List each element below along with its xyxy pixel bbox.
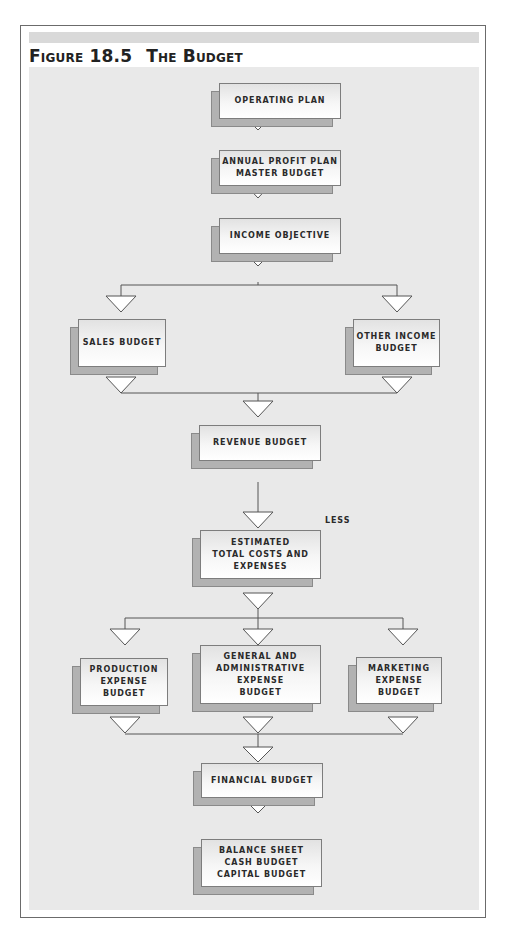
node-label: Production [90,664,159,676]
node-label: General and [224,651,298,663]
arrow-down-icon [110,717,140,733]
figure-title: Figure 18.5The Budget [29,46,243,66]
arrow-down-icon [243,401,273,417]
less-annotation: Less [325,516,350,525]
figure-caption: The Budget [146,46,243,66]
node-label: Master Budget [236,168,324,180]
arrow-down-icon [382,296,412,312]
node-label: Capital Budget [217,869,306,881]
arrow-down-icon [388,629,418,645]
node-label: Expense [100,676,147,688]
node-label: Budget [239,687,281,699]
node-label: Expense [237,675,284,687]
node-label: Estimated [231,537,290,549]
node-label: Balance Sheet [219,845,304,857]
diagram-canvas: Operating Plan Annual Profit Plan Master… [29,67,479,910]
node-label: Sales Budget [83,337,162,349]
node-label: Expenses [234,561,288,573]
node-label: Annual Profit Plan [222,156,337,168]
header-stripe [29,32,479,43]
node-label: Budget [375,343,417,355]
node-label: Total Costs and [212,549,309,561]
arrow-down-icon [243,747,273,762]
figure-number: Figure 18.5 [29,46,132,66]
arrow-down-icon [243,629,273,645]
node-label: Budget [378,687,420,699]
node-label: Marketing [368,663,430,675]
arrow-down-icon [388,717,418,733]
node-label: Other Income [357,331,437,343]
arrow-down-icon [382,377,412,393]
arrow-down-icon [110,629,140,645]
node-label: Expense [375,675,422,687]
node-label: Cash Budget [225,857,299,869]
node-label: Revenue Budget [213,437,307,449]
node-label: Income Objective [230,230,330,242]
node-label: Budget [103,688,145,700]
arrow-down-icon [243,512,273,528]
arrow-down-icon [106,296,136,312]
arrow-down-icon [243,593,273,609]
node-label: Operating Plan [235,95,326,107]
node-label: Financial Budget [211,775,313,787]
arrow-down-icon [106,377,136,393]
node-label: Administrative [216,663,305,675]
arrow-down-icon [243,717,273,733]
